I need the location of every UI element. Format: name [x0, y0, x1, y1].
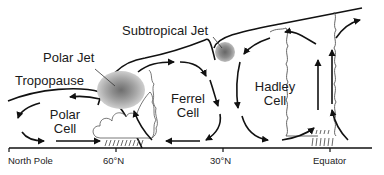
subtropical-jet-label: Subtropical Jet [122, 24, 208, 37]
circulation-diagram: Subtropical Jet Polar Jet Tropopause Pol… [0, 0, 384, 175]
polar-cell-label: Polar Cell [42, 108, 88, 136]
hadley-cell-label: Hadley Cell [250, 80, 300, 108]
ferrel-cell-label: Ferrel Cell [165, 92, 211, 120]
axis-label-north-pole: North Pole [8, 156, 53, 166]
tropical-tropopause [214, 8, 362, 48]
subtropical-jet-core [215, 42, 235, 62]
latitude-axis [9, 148, 372, 152]
precipitation-hatch-equator [312, 130, 333, 146]
precipitation-hatch-60n [105, 140, 143, 146]
axis-label-equator: Equator [313, 156, 346, 166]
tropopause-label: Tropopause [15, 74, 84, 87]
polar-jet-label: Polar Jet [43, 51, 94, 64]
axis-label-30n: 30°N [210, 156, 231, 166]
axis-label-60n: 60°N [103, 156, 124, 166]
